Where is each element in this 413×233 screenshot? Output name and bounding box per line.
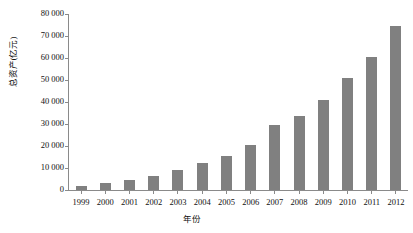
bar-column: 2009 <box>311 14 335 190</box>
y-axis-tick-label: 30 000 <box>41 118 64 128</box>
bar <box>294 116 305 190</box>
bar <box>390 26 401 190</box>
bar-column: 2002 <box>142 14 166 190</box>
bar-column: 2004 <box>190 14 214 190</box>
y-axis-tick-label: 40 000 <box>41 96 64 106</box>
bar <box>100 183 111 190</box>
y-axis-tick-label: 0 <box>60 184 64 194</box>
bar <box>124 180 135 190</box>
bar-column: 2012 <box>384 14 408 190</box>
x-axis-tick-label: 2011 <box>363 197 380 207</box>
x-axis-tick-mark <box>371 190 372 194</box>
x-axis-tick-label: 2004 <box>194 197 211 207</box>
y-axis-tick-mark <box>65 190 69 191</box>
bar <box>342 78 353 190</box>
y-axis-tick-label: 70 000 <box>41 30 64 40</box>
x-axis-tick-mark <box>347 190 348 194</box>
plot-area: 80 00070 00060 00050 00040 00030 00020 0… <box>68 14 408 191</box>
bar-column: 2008 <box>287 14 311 190</box>
x-axis-tick-mark <box>299 190 300 194</box>
y-axis-title: 总资产(亿元) <box>6 14 18 110</box>
bar-column: 2007 <box>263 14 287 190</box>
x-axis-tick-mark <box>202 190 203 194</box>
x-axis-tick-label: 2006 <box>242 197 259 207</box>
bar <box>245 145 256 190</box>
bar <box>318 100 329 190</box>
bar-column: 2010 <box>335 14 359 190</box>
bar-column: 1999 <box>69 14 93 190</box>
x-axis-tick-mark <box>81 190 82 194</box>
x-axis-tick-mark <box>105 190 106 194</box>
bar-column: 2001 <box>117 14 141 190</box>
x-axis-tick-label: 1999 <box>73 197 90 207</box>
x-axis-tick-mark <box>274 190 275 194</box>
x-axis-tick-mark <box>250 190 251 194</box>
x-axis-tick-label: 2003 <box>169 197 186 207</box>
y-axis-tick-label: 80 000 <box>41 8 64 18</box>
x-axis-tick-label: 2010 <box>339 197 356 207</box>
bar-column: 2003 <box>166 14 190 190</box>
bar <box>148 176 159 190</box>
x-axis-tick-label: 2007 <box>266 197 283 207</box>
x-axis-tick-mark <box>323 190 324 194</box>
bar-column: 2005 <box>214 14 238 190</box>
x-axis-tick-mark <box>177 190 178 194</box>
x-axis-tick-label: 2002 <box>145 197 162 207</box>
y-axis-tick-label: 20 000 <box>41 140 64 150</box>
bar <box>172 170 183 190</box>
bar-column: 2011 <box>360 14 384 190</box>
x-axis-tick-label: 2001 <box>121 197 138 207</box>
y-axis-tick-label: 50 000 <box>41 74 64 84</box>
x-axis-tick-label: 2012 <box>387 197 404 207</box>
x-axis-tick-label: 2005 <box>218 197 235 207</box>
bar-column: 2006 <box>239 14 263 190</box>
x-axis-tick-mark <box>129 190 130 194</box>
bar <box>366 57 377 190</box>
bar <box>197 163 208 191</box>
x-axis-tick-label: 2008 <box>291 197 308 207</box>
x-axis-tick-label: 2000 <box>97 197 114 207</box>
bar-series: 1999200020012002200320042005200620072008… <box>69 14 408 190</box>
y-axis-tick-label: 10 000 <box>41 162 64 172</box>
x-axis-tick-label: 2009 <box>315 197 332 207</box>
x-axis-tick-mark <box>395 190 396 194</box>
bar-column: 2000 <box>93 14 117 190</box>
x-axis-tick-mark <box>153 190 154 194</box>
y-axis-tick-label: 60 000 <box>41 52 64 62</box>
x-axis-tick-mark <box>226 190 227 194</box>
x-axis-title: 年份 <box>183 212 201 224</box>
bar <box>269 125 280 190</box>
bar-chart-figure: 总资产(亿元) 80 00070 00060 00050 00040 00030… <box>0 0 413 233</box>
bar <box>221 156 232 190</box>
